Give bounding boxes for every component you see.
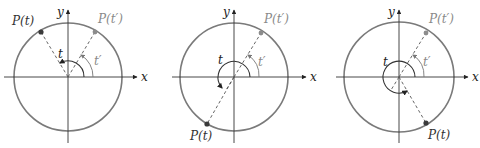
- y-axis-label: y: [387, 5, 395, 19]
- angle-tprime-arc: [81, 55, 93, 77]
- radius-to-p-tprime: [399, 33, 426, 77]
- point-p-t-label: P(t): [189, 129, 213, 143]
- y-axis-label: y: [56, 5, 64, 19]
- unit-circle-diagram-3: xytt′P(t)P(t′): [336, 5, 479, 143]
- point-p-t-label: P(t): [427, 128, 451, 142]
- angle-t-label: t: [218, 53, 223, 67]
- reference-line-extension: [392, 77, 399, 89]
- radius-to-p-tprime: [234, 33, 261, 77]
- unit-circle-diagram-2: xytt′P(t)P(t′): [172, 5, 317, 143]
- unit-circle-diagram-1: xytt′P(t)P(t′): [4, 5, 148, 143]
- angle-t-label: t: [383, 55, 388, 69]
- x-axis-label: x: [472, 70, 479, 84]
- radius-to-p-t: [399, 77, 426, 123]
- point-p-tprime: [424, 31, 429, 36]
- point-p-tprime-label: P(t′): [263, 12, 289, 26]
- angle-t-arc: [60, 61, 84, 77]
- x-axis-label: x: [310, 70, 317, 84]
- point-p-tprime: [93, 30, 98, 35]
- point-p-t-label: P(t): [11, 14, 35, 28]
- radius-to-p-t: [41, 32, 68, 77]
- point-p-tprime: [259, 31, 264, 36]
- y-axis-label: y: [222, 5, 230, 19]
- point-p-t: [38, 29, 43, 34]
- angle-t-label: t: [58, 47, 63, 61]
- angle-tprime-label: t′: [258, 55, 266, 69]
- angle-tprime-label: t′: [423, 55, 431, 69]
- point-p-t: [204, 121, 209, 126]
- unit-circle-figure: xytt′P(t)P(t′)xytt′P(t)P(t′)xytt′P(t)P(t…: [0, 0, 480, 148]
- three-unit-circles-diagram: xytt′P(t)P(t′)xytt′P(t)P(t′)xytt′P(t)P(t…: [0, 0, 480, 148]
- reference-line-extension: [227, 77, 234, 89]
- angle-tprime-label: t′: [94, 54, 102, 68]
- radius-to-p-tprime: [68, 32, 95, 77]
- point-p-tprime-label: P(t′): [97, 12, 123, 26]
- point-p-t: [423, 120, 428, 125]
- x-axis-label: x: [141, 70, 148, 84]
- point-p-tprime-label: P(t′): [428, 12, 454, 26]
